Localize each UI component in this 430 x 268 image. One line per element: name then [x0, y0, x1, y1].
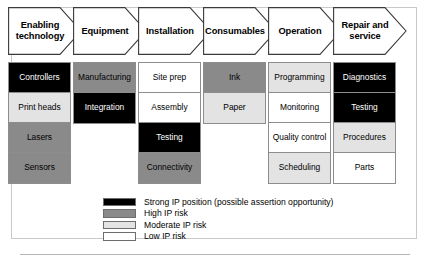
risk-box[interactable]: Assembly	[139, 93, 200, 123]
risk-box[interactable]: Integration	[74, 93, 135, 123]
risk-box[interactable]: Ink	[204, 63, 265, 93]
stage-chevron-5[interactable]: Operation	[268, 7, 342, 55]
legend-label: Strong IP position (possible assertion o…	[144, 197, 334, 207]
legend-swatch-strong	[103, 198, 136, 207]
stage-chevron-1[interactable]: Enabling technology	[8, 7, 82, 55]
stage-label: Operation	[268, 7, 330, 55]
risk-box[interactable]: Quality control	[269, 123, 330, 153]
risk-box[interactable]: Testing	[334, 93, 395, 123]
legend: Strong IP position (possible assertion o…	[103, 196, 403, 242]
risk-column-5: ProgrammingMonitoringQuality controlSche…	[268, 62, 331, 184]
risk-box[interactable]: Paper	[204, 93, 265, 123]
risk-box[interactable]: Sensors	[9, 153, 70, 183]
stage-chevron-4[interactable]: Consumables	[203, 7, 277, 55]
stage-chevron-row: Enabling technologyEquipmentInstallation…	[8, 7, 400, 55]
risk-box[interactable]: Scheduling	[269, 153, 330, 183]
legend-label: High IP risk	[144, 208, 188, 218]
legend-item: Low IP risk	[103, 231, 403, 243]
risk-column-3: Site prepAssemblyTestingConnectivity	[138, 62, 201, 184]
legend-label: Moderate IP risk	[144, 220, 206, 230]
risk-box[interactable]: Print heads	[9, 93, 70, 123]
risk-box[interactable]: Lasers	[9, 123, 70, 153]
legend-swatch-high	[103, 209, 136, 218]
stage-chevron-6[interactable]: Repair and service	[333, 7, 407, 55]
legend-item: High IP risk	[103, 208, 403, 220]
risk-box[interactable]: Monitoring	[269, 93, 330, 123]
risk-box[interactable]: Manufacturing	[74, 63, 135, 93]
risk-box[interactable]: Site prep	[139, 63, 200, 93]
legend-label: Low IP risk	[144, 231, 186, 241]
stage-chevron-2[interactable]: Equipment	[73, 7, 147, 55]
risk-box[interactable]: Parts	[334, 153, 395, 183]
stage-label: Installation	[138, 7, 200, 55]
stage-label: Enabling technology	[8, 7, 70, 55]
stage-label: Consumables	[203, 7, 265, 55]
stage-label: Equipment	[73, 7, 135, 55]
bottom-divider	[20, 254, 410, 255]
legend-swatch-moderate	[103, 221, 136, 230]
stage-chevron-3[interactable]: Installation	[138, 7, 212, 55]
risk-box[interactable]: Testing	[139, 123, 200, 153]
risk-box[interactable]: Diagnostics	[334, 63, 395, 93]
risk-column-2: ManufacturingIntegration	[73, 62, 136, 124]
risk-column-4: InkPaper	[203, 62, 266, 124]
legend-item: Moderate IP risk	[103, 219, 403, 231]
risk-column-6: DiagnosticsTestingProceduresParts	[333, 62, 396, 184]
risk-box[interactable]: Procedures	[334, 123, 395, 153]
risk-column-1: ControllersPrint headsLasersSensors	[8, 62, 71, 184]
risk-columns: ControllersPrint headsLasersSensorsManuf…	[8, 62, 400, 187]
stage-label: Repair and service	[333, 7, 395, 55]
risk-box[interactable]: Connectivity	[139, 153, 200, 183]
risk-box[interactable]: Programming	[269, 63, 330, 93]
legend-item: Strong IP position (possible assertion o…	[103, 196, 403, 208]
legend-swatch-low	[103, 232, 136, 241]
risk-box[interactable]: Controllers	[9, 63, 70, 93]
